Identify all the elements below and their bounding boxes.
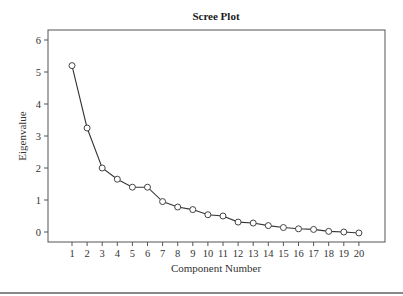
chart-title: Scree Plot: [192, 10, 239, 22]
x-tick-label: 19: [339, 248, 350, 259]
y-tick-label: 3: [36, 131, 41, 142]
data-point-marker: [190, 207, 196, 213]
data-point-marker: [341, 229, 347, 235]
x-tick-label: 20: [354, 248, 365, 259]
data-point-marker: [220, 213, 226, 219]
data-point-marker: [311, 226, 317, 232]
y-tick-label: 5: [36, 67, 41, 78]
x-tick-label: 4: [115, 248, 121, 259]
y-tick-label: 6: [36, 35, 41, 46]
x-tick-label: 1: [69, 248, 74, 259]
data-point-marker: [265, 223, 271, 229]
plot-frame: [48, 30, 385, 242]
data-point-marker: [356, 230, 362, 236]
x-tick-label: 3: [100, 248, 105, 259]
eigenvalue-line: [72, 66, 359, 233]
data-point-marker: [145, 184, 151, 190]
x-tick-label: 11: [218, 248, 228, 259]
x-tick-label: 10: [203, 248, 214, 259]
data-point-marker: [114, 176, 120, 182]
data-point-marker: [84, 125, 90, 131]
data-point-marker: [296, 226, 302, 232]
x-tick-label: 12: [233, 248, 244, 259]
scree-plot-chart: Scree Plot 0123456 123456789101112131415…: [0, 0, 403, 296]
x-tick-label: 5: [130, 248, 135, 259]
data-point-marker: [160, 199, 166, 205]
y-tick-label: 1: [36, 195, 41, 206]
y-tick-label: 4: [36, 99, 42, 110]
data-point-marker: [99, 165, 105, 171]
data-markers: [69, 63, 362, 236]
data-point-marker: [69, 63, 75, 69]
data-point-marker: [205, 212, 211, 218]
y-axis: 0123456: [36, 35, 48, 238]
data-point-marker: [326, 228, 332, 234]
x-tick-label: 9: [190, 248, 195, 259]
data-point-marker: [175, 204, 181, 210]
data-point-marker: [250, 220, 256, 226]
data-point-marker: [129, 184, 135, 190]
y-tick-label: 2: [36, 163, 41, 174]
x-tick-label: 18: [323, 248, 334, 259]
data-point-marker: [235, 219, 241, 225]
x-tick-label: 8: [175, 248, 180, 259]
x-tick-label: 17: [308, 248, 319, 259]
x-tick-label: 2: [84, 248, 89, 259]
y-tick-label: 0: [36, 227, 41, 238]
y-axis-label: Eigenvalue: [16, 111, 28, 161]
x-tick-label: 7: [160, 248, 165, 259]
x-tick-label: 6: [145, 248, 150, 259]
x-tick-label: 14: [263, 248, 274, 259]
data-point-marker: [280, 225, 286, 231]
x-tick-label: 15: [278, 248, 289, 259]
x-tick-label: 16: [293, 248, 304, 259]
x-axis: 1234567891011121314151617181920: [69, 242, 364, 259]
x-tick-label: 13: [248, 248, 259, 259]
x-axis-label: Component Number: [171, 262, 261, 274]
